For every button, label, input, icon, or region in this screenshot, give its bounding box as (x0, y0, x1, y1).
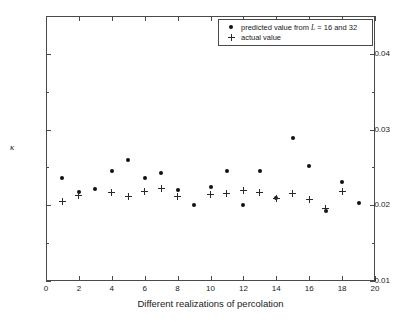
y-axis-minor-tick (46, 92, 49, 93)
x-axis-tick (145, 16, 146, 21)
x-axis-tick-label: 12 (231, 284, 255, 293)
x-axis-tick (79, 276, 80, 281)
y-axis-tick (46, 130, 51, 131)
x-axis-tick-label: 2 (67, 284, 91, 293)
x-axis-tick (79, 16, 80, 21)
y-axis-tick-label: 0.02 (352, 201, 393, 209)
y-axis-minor-tick (372, 243, 375, 244)
x-axis-tick-label: 0 (34, 284, 58, 293)
y-axis-minor-tick (372, 167, 375, 168)
x-axis-title: Different realizations of percolation (46, 298, 375, 309)
x-axis-tick (211, 276, 212, 281)
legend-entry-actual-label: actual value (239, 33, 281, 42)
x-axis-tick (112, 276, 113, 281)
y-axis-minor-tick (46, 243, 49, 244)
legend-entry-predicted: predicted value from L = 16 and 32 (223, 22, 368, 32)
plot-area (46, 16, 375, 281)
x-axis-tick (211, 16, 212, 21)
filled-dot-icon (223, 22, 239, 32)
x-axis-tick-label: 8 (166, 284, 190, 293)
x-axis-tick-label: 6 (133, 284, 157, 293)
legend-entry-actual: actual value (223, 32, 368, 42)
x-axis-tick (276, 276, 277, 281)
x-axis-tick (178, 276, 179, 281)
x-axis-tick (243, 276, 244, 281)
y-axis-minor-tick (372, 92, 375, 93)
x-axis-tick (145, 276, 146, 281)
y-axis-tick-label: 0.04 (352, 50, 393, 58)
x-axis-tick (375, 16, 376, 21)
x-axis-tick-label: 14 (264, 284, 288, 293)
x-axis-tick (46, 16, 47, 21)
figure-caption-partial (60, 0, 310, 8)
x-axis-tick-label: 10 (199, 284, 223, 293)
x-axis-tick-label: 20 (363, 284, 387, 293)
x-axis-tick-label: 16 (297, 284, 321, 293)
legend-box: predicted value from L = 16 and 32 actua… (218, 19, 373, 46)
x-axis-tick-label: 18 (330, 284, 354, 293)
x-axis-tick (46, 276, 47, 281)
y-axis-tick (46, 205, 51, 206)
x-axis-tick-label: 4 (100, 284, 124, 293)
legend-entry-predicted-label: predicted value from L = 16 and 32 (239, 23, 357, 32)
y-axis-title: κ (10, 142, 14, 152)
x-axis-tick (342, 276, 343, 281)
y-axis-tick-label: 0.03 (352, 126, 393, 134)
y-axis-minor-tick (46, 167, 49, 168)
plus-icon (223, 32, 239, 42)
x-axis-tick (112, 16, 113, 21)
y-axis-tick (46, 281, 51, 282)
figure-scatter-percolation: 0.010.020.030.0402468101214161820 κ Diff… (0, 0, 393, 324)
x-axis-tick (309, 276, 310, 281)
x-axis-tick (178, 16, 179, 21)
y-axis-tick (46, 54, 51, 55)
